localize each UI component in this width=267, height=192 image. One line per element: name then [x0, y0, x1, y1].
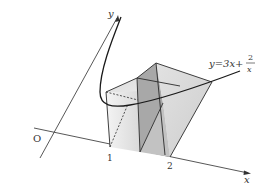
equation-lhs: y=3x+ — [208, 58, 243, 69]
y-axis — [40, 15, 120, 158]
curve-equation-label: y=3x+ 2 x — [208, 53, 255, 74]
tick-label-1: 1 — [107, 153, 113, 163]
solid-figure-diagram: y x O 1 2 y=3x+ 2 x — [0, 0, 267, 192]
origin-label: O — [33, 133, 41, 144]
equation-fraction-denominator: x — [247, 65, 252, 74]
equation-fraction-numerator: 2 — [248, 53, 253, 62]
solid — [106, 63, 212, 157]
y-axis-label: y — [107, 8, 114, 19]
x-axis-label: x — [244, 174, 250, 185]
tick-label-2: 2 — [167, 161, 173, 171]
